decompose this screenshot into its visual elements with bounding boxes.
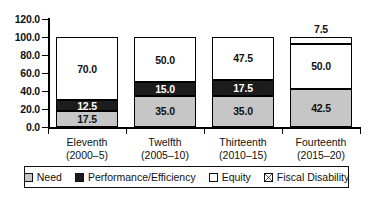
y-tick-120 [42, 19, 48, 20]
legend-label-performance-efficiency: Performance/Efficiency [88, 171, 196, 183]
bar-fourteenth[interactable]: 42.5 50.0 [290, 37, 352, 127]
legend-label-need: Need [37, 171, 62, 183]
segment-equity-twelfth[interactable]: 50.0 [134, 37, 196, 82]
category-period-thirteenth: (2010–15) [204, 149, 282, 162]
equity-swatch-icon [209, 173, 218, 182]
bar-twelfth[interactable]: 35.0 15.0 50.0 [134, 37, 196, 127]
category-label-thirteenth: Thirteenth (2010–15) [204, 136, 282, 162]
legend-item-need[interactable]: Need [24, 171, 62, 183]
y-tick-label-60: 60.0 [0, 68, 40, 79]
y-tick-label-100: 100.0 [0, 32, 40, 43]
y-axis-line [48, 18, 50, 128]
category-name-twelfth: Twelfth [148, 136, 181, 148]
y-tick-label-120: 120.0 [0, 14, 40, 25]
segment-fiscal-disability-fourteenth[interactable] [290, 37, 352, 44]
segment-need-fourteenth[interactable]: 42.5 [290, 89, 352, 127]
bar-eleventh[interactable]: 17.5 12.5 70.0 [56, 37, 118, 127]
segment-performance-eleventh[interactable]: 12.5 [56, 100, 118, 111]
x-tick-1 [126, 128, 127, 134]
legend-label-equity: Equity [222, 171, 251, 183]
segment-label-fiscal-disability-fourteenth: 7.5 [290, 23, 352, 35]
y-tick-label-0: 0.0 [0, 122, 40, 133]
segment-equity-eleventh[interactable]: 70.0 [56, 37, 118, 100]
category-name-fourteenth: Fourteenth [296, 136, 347, 148]
segment-performance-thirteenth[interactable]: 17.5 [212, 80, 274, 96]
y-tick-label-40: 40.0 [0, 86, 40, 97]
y-tick-label-20: 20.0 [0, 104, 40, 115]
segment-need-twelfth[interactable]: 35.0 [134, 96, 196, 128]
x-tick-2 [204, 128, 205, 134]
category-name-eleventh: Eleventh [67, 136, 108, 148]
x-tick-3 [282, 128, 283, 134]
x-hatch-pattern [291, 38, 351, 43]
segment-need-eleventh[interactable]: 17.5 [56, 111, 118, 127]
y-tick-100 [42, 37, 48, 38]
y-tick-label-80: 80.0 [0, 50, 40, 61]
legend-item-equity[interactable]: Equity [209, 171, 251, 183]
segment-need-thirteenth[interactable]: 35.0 [212, 96, 274, 128]
segment-performance-twelfth[interactable]: 15.0 [134, 82, 196, 96]
category-label-eleventh: Eleventh (2000–5) [48, 136, 126, 162]
category-label-fourteenth: Fourteenth (2015–20) [282, 136, 360, 162]
need-swatch-icon [24, 173, 33, 182]
y-tick-20 [42, 109, 48, 110]
legend-label-fiscal-disability: Fiscal Disability [277, 171, 349, 183]
bar-thirteenth[interactable]: 35.0 17.5 47.5 [212, 37, 274, 127]
category-name-thirteenth: Thirteenth [219, 136, 266, 148]
y-tick-40 [42, 91, 48, 92]
performance-swatch-icon [75, 173, 84, 182]
category-label-twelfth: Twelfth (2005–10) [126, 136, 204, 162]
segment-equity-thirteenth[interactable]: 47.5 [212, 37, 274, 80]
category-period-fourteenth: (2015–20) [282, 149, 360, 162]
y-tick-80 [42, 55, 48, 56]
x-tick-end [360, 128, 361, 134]
fiscal-disability-swatch-icon [264, 173, 273, 182]
stacked-bar-chart: 0.0 20.0 40.0 60.0 80.0 100.0 120.0 17.5… [0, 0, 375, 197]
legend-item-fiscal-disability[interactable]: Fiscal Disability [264, 171, 349, 183]
legend-item-performance-efficiency[interactable]: Performance/Efficiency [75, 171, 196, 183]
segment-equity-fourteenth[interactable]: 50.0 [290, 44, 352, 89]
category-period-twelfth: (2005–10) [126, 149, 204, 162]
y-tick-60 [42, 73, 48, 74]
chart-legend: Need Performance/Efficiency Equity Fisca… [24, 166, 349, 188]
category-period-eleventh: (2000–5) [48, 149, 126, 162]
x-tick-start [48, 128, 49, 134]
